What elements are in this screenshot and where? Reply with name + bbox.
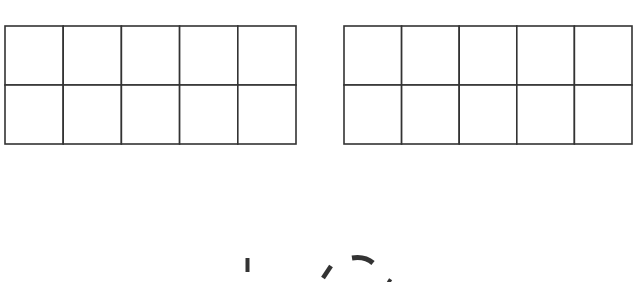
frame-cell bbox=[574, 26, 632, 85]
frame-cell bbox=[402, 26, 460, 85]
frame-cell bbox=[180, 85, 238, 144]
frame-cell bbox=[180, 26, 238, 85]
frame-cell bbox=[238, 26, 296, 85]
frame-cell bbox=[121, 26, 179, 85]
frame-cell bbox=[238, 85, 296, 144]
slash-stroke-glyph bbox=[323, 266, 331, 278]
frame-cell bbox=[5, 26, 63, 85]
frame-cell bbox=[459, 26, 517, 85]
ten-frames bbox=[5, 26, 632, 144]
right-ten-frame bbox=[344, 26, 632, 144]
arc-stroke-glyph bbox=[352, 258, 373, 263]
frame-cell bbox=[402, 85, 460, 144]
frame-cell bbox=[344, 85, 402, 144]
frame-cell bbox=[459, 85, 517, 144]
frame-cell bbox=[63, 26, 121, 85]
frame-cell bbox=[63, 85, 121, 144]
diagram-canvas bbox=[0, 0, 638, 282]
cropped-glyphs bbox=[248, 258, 392, 282]
frame-cell bbox=[574, 85, 632, 144]
left-ten-frame bbox=[5, 26, 296, 144]
frame-cell bbox=[517, 26, 575, 85]
frame-cell bbox=[344, 26, 402, 85]
frame-cell bbox=[121, 85, 179, 144]
frame-cell bbox=[517, 85, 575, 144]
frame-cell bbox=[5, 85, 63, 144]
